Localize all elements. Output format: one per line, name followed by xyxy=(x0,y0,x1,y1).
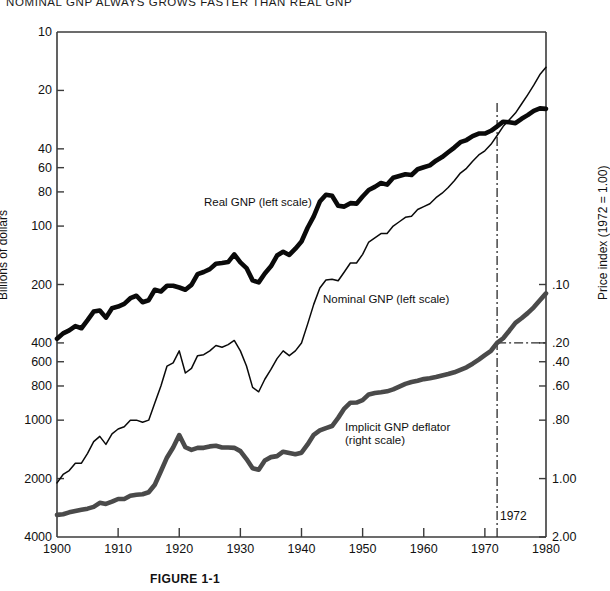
deflator-label-line-2: (right scale) xyxy=(345,434,405,446)
series-line-implicit xyxy=(57,293,546,515)
series-label-nominal-gnp: Nominal GNP (left scale) xyxy=(323,293,449,306)
series-label-gnp-deflator: Implicit GNP deflator (right scale) xyxy=(345,421,450,447)
data-series xyxy=(57,67,546,515)
deflator-label-line-1: Implicit GNP deflator xyxy=(345,421,450,433)
series-line-nominal xyxy=(57,67,546,483)
plot-frame xyxy=(57,32,546,537)
figure-caption: FIGURE 1-1 xyxy=(150,572,220,586)
year-marker-label: 1972 xyxy=(500,509,527,523)
axis-ticks xyxy=(57,90,546,537)
series-line-real xyxy=(57,108,546,338)
series-label-real-gnp: Real GNP (left scale) xyxy=(204,196,312,209)
